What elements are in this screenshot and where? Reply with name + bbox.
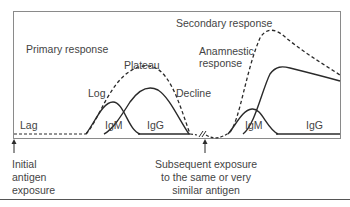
initial-exposure-arrow-icon — [12, 139, 17, 153]
anamnestic-label-line1: Anamnestic — [199, 45, 254, 57]
initial-exposure-line3: exposure — [12, 184, 55, 196]
plateau-label: Plateau — [124, 59, 160, 71]
decline-label: Decline — [176, 87, 211, 99]
igm-secondary-label: IgM — [245, 119, 263, 131]
secondary-dip-curve — [190, 132, 230, 138]
axis-break-icon — [199, 131, 206, 137]
secondary-response-label: Secondary response — [176, 17, 272, 29]
anamnestic-label-line2: response — [199, 57, 242, 69]
primary-total-curve — [86, 66, 190, 134]
lag-label: Lag — [20, 119, 38, 131]
igg-primary-label: IgG — [147, 119, 164, 131]
igg-secondary-label: IgG — [306, 119, 323, 131]
igm-primary-label: IgM — [105, 119, 123, 131]
primary-response-label: Primary response — [26, 43, 108, 55]
subsequent-exposure-line2: to the same or very — [155, 171, 257, 183]
subsequent-exposure-arrow-icon — [203, 139, 208, 153]
initial-exposure-line2: antigen — [12, 171, 46, 183]
diagram-frame — [14, 12, 341, 139]
initial-exposure-line1: Initial — [12, 158, 37, 170]
subsequent-exposure-line3: similar antigen — [155, 184, 257, 196]
log-label: Log — [88, 87, 106, 99]
subsequent-exposure-line1: Subsequent exposure — [155, 158, 257, 170]
